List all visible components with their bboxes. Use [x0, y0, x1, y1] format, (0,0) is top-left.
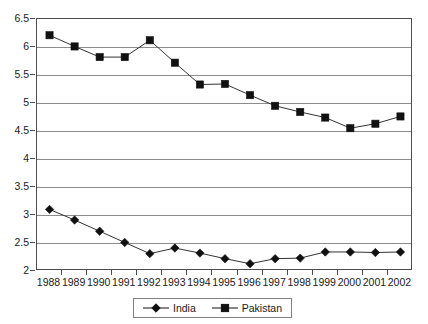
data-point — [221, 80, 228, 87]
data-point — [321, 248, 329, 256]
y-tick-mark — [30, 186, 35, 187]
y-tick-label: 6 — [23, 41, 29, 52]
data-point — [346, 248, 354, 256]
x-tick-label: 1999 — [313, 276, 336, 288]
legend-item-india[interactable]: India — [143, 302, 196, 314]
x-tick-mark — [61, 270, 62, 275]
x-tick-mark — [287, 270, 288, 275]
x-tick-label: 1994 — [187, 276, 210, 288]
x-tick-mark — [186, 270, 187, 275]
series-pakistan — [46, 32, 404, 132]
legend-diamond-icon — [143, 302, 169, 314]
y-tick-mark — [30, 74, 35, 75]
data-point — [371, 248, 379, 256]
data-point — [272, 102, 279, 109]
y-tick-label: 4 — [23, 153, 29, 164]
data-point — [95, 227, 103, 235]
x-tick-label: 1992 — [137, 276, 160, 288]
data-point — [271, 254, 279, 262]
data-point — [396, 248, 404, 256]
x-tick-label: 2001 — [363, 276, 386, 288]
y-tick-label: 5.5 — [14, 69, 29, 80]
y-tick-label: 4.5 — [14, 125, 29, 136]
x-tick-label: 1990 — [87, 276, 110, 288]
data-point — [121, 53, 128, 60]
x-tick-mark — [86, 270, 87, 275]
data-point — [146, 37, 153, 44]
legend-item-pakistan[interactable]: Pakistan — [212, 302, 282, 314]
data-point — [196, 81, 203, 88]
data-point — [296, 254, 304, 262]
data-point — [297, 108, 304, 115]
y-tick-label: 3.5 — [14, 181, 29, 192]
y-tick-label: 3 — [23, 209, 29, 220]
data-point — [221, 254, 229, 262]
y-tick-mark — [30, 18, 35, 19]
y-tick-label: 2.5 — [14, 237, 29, 248]
x-tick-mark — [312, 270, 313, 275]
x-tick-mark — [211, 270, 212, 275]
y-tick-mark — [30, 158, 35, 159]
chart-legend: IndiaPakistan — [133, 298, 292, 318]
data-point — [70, 216, 78, 224]
data-point — [171, 244, 179, 252]
x-tick-label: 1995 — [212, 276, 235, 288]
x-tick-mark — [387, 270, 388, 275]
data-point — [71, 43, 78, 50]
y-tick-label: 2 — [23, 265, 29, 276]
series-india — [45, 205, 404, 268]
legend-label: Pakistan — [242, 302, 282, 314]
x-tick-label: 1997 — [262, 276, 285, 288]
y-tick-label: 6.5 — [14, 13, 29, 24]
legend-label: India — [173, 302, 196, 314]
data-point — [146, 249, 154, 257]
x-tick-label: 1998 — [288, 276, 311, 288]
x-tick-label: 1991 — [112, 276, 135, 288]
data-point — [196, 249, 204, 257]
legend-square-icon — [212, 302, 238, 314]
data-point — [347, 125, 354, 132]
x-tick-mark — [161, 270, 162, 275]
data-point — [372, 120, 379, 127]
x-tick-label: 2000 — [338, 276, 361, 288]
data-point — [246, 260, 254, 268]
x-axis: 1988198919901991199219931994199519961997… — [36, 276, 412, 290]
x-axis-ticks — [36, 270, 412, 275]
data-point — [45, 205, 53, 213]
x-tick-mark — [111, 270, 112, 275]
y-tick-mark — [30, 102, 35, 103]
x-tick-label: 1989 — [62, 276, 85, 288]
x-tick-mark — [136, 270, 137, 275]
x-tick-label: 1993 — [162, 276, 185, 288]
y-axis: 22.533.544.555.566.5 — [0, 18, 33, 270]
x-tick-mark — [262, 270, 263, 275]
data-point — [171, 59, 178, 66]
data-point — [121, 238, 129, 246]
plot-frame — [36, 18, 412, 270]
data-point — [322, 114, 329, 121]
y-tick-mark — [30, 46, 35, 47]
x-tick-label: 1988 — [37, 276, 60, 288]
data-point — [246, 92, 253, 99]
series-layer — [37, 19, 413, 271]
x-tick-label: 2002 — [388, 276, 411, 288]
y-tick-mark — [30, 214, 35, 215]
y-tick-label: 5 — [23, 97, 29, 108]
x-tick-mark — [237, 270, 238, 275]
x-tick-label: 1996 — [237, 276, 260, 288]
x-tick-mark — [362, 270, 363, 275]
y-tick-mark — [30, 270, 35, 271]
data-point — [397, 113, 404, 120]
y-tick-mark — [30, 130, 35, 131]
y-tick-mark — [30, 242, 35, 243]
x-tick-mark — [337, 270, 338, 275]
data-point — [46, 32, 53, 39]
data-point — [96, 53, 103, 60]
line-chart: 22.533.544.555.566.5 1988198919901991199… — [0, 0, 428, 324]
